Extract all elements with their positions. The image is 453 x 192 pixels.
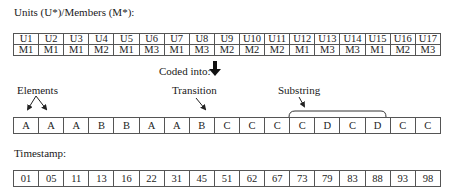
sequence-cell: B xyxy=(189,118,214,134)
timestamp-cell: 11 xyxy=(64,171,89,187)
sequence-cell: C xyxy=(239,118,264,134)
timestamp-cell: 45 xyxy=(189,171,214,187)
timestamp-cell: 98 xyxy=(415,171,440,187)
substring-arrow-icon xyxy=(299,97,304,106)
sequence-row: A A A B B A A B C C C C D C D C C xyxy=(14,118,441,134)
sequence-cell: D xyxy=(365,118,390,134)
timestamp-cell: 01 xyxy=(14,171,39,187)
timestamp-row: 01 05 11 13 16 22 31 45 51 62 67 73 79 8… xyxy=(14,171,441,187)
timestamp-cell: 79 xyxy=(315,171,340,187)
sequence-cell: A xyxy=(39,118,64,134)
timestamp-table: 01 05 11 13 16 22 31 45 51 62 67 73 79 8… xyxy=(13,170,441,187)
sequence-cell: C xyxy=(290,118,315,134)
sequence-cell: A xyxy=(64,118,89,134)
timestamp-cell: 67 xyxy=(265,171,290,187)
sequence-cell: C xyxy=(214,118,239,134)
timestamp-cell: 93 xyxy=(390,171,415,187)
sequence-cell: A xyxy=(139,118,164,134)
sequence-cell: C xyxy=(265,118,290,134)
timestamp-cell: 22 xyxy=(139,171,164,187)
sequence-cell: A xyxy=(164,118,189,134)
sequence-cell: C xyxy=(390,118,415,134)
timestamp-cell: 83 xyxy=(340,171,365,187)
coded-sequence-table: A A A B B A A B C C C C D C D C C xyxy=(13,117,441,134)
arrows-overlay xyxy=(0,0,453,192)
timestamp-cell: 88 xyxy=(365,171,390,187)
sequence-cell: B xyxy=(89,118,114,134)
timestamp-cell: 73 xyxy=(290,171,315,187)
sequence-cell: C xyxy=(415,118,440,134)
timestamp-cell: 05 xyxy=(39,171,64,187)
timestamp-cell: 51 xyxy=(214,171,239,187)
transition-arrow-icon xyxy=(196,98,205,109)
sequence-cell: D xyxy=(315,118,340,134)
thick-down-arrow-icon xyxy=(209,61,221,76)
timestamp-title: Timestamp: xyxy=(14,147,66,159)
timestamp-cell: 13 xyxy=(89,171,114,187)
timestamp-cell: 16 xyxy=(114,171,139,187)
timestamp-cell: 31 xyxy=(164,171,189,187)
sequence-cell: C xyxy=(340,118,365,134)
timestamp-cell: 62 xyxy=(239,171,264,187)
elements-arrows-icon xyxy=(28,96,46,109)
sequence-cell: A xyxy=(14,118,39,134)
sequence-cell: B xyxy=(114,118,139,134)
